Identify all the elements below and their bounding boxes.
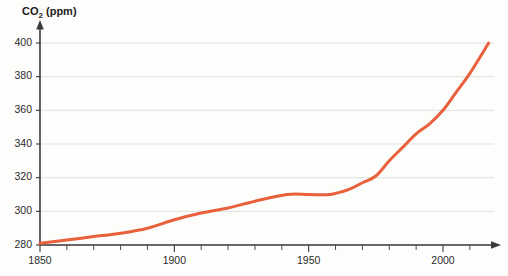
chart-canvas: CO2 (ppm) 280300320340360380400 18501900… bbox=[0, 0, 508, 276]
y-axis-arrow-icon bbox=[36, 20, 44, 30]
co2-line-chart: CO2 (ppm) 280300320340360380400 18501900… bbox=[0, 0, 508, 276]
y-tick-label: 280 bbox=[14, 238, 32, 250]
x-axis-ticks-group: 1850190019502000 bbox=[28, 245, 470, 266]
y-tick-label: 360 bbox=[14, 103, 32, 115]
x-tick-label: 2000 bbox=[431, 254, 455, 266]
y-axis-title: CO2 (ppm) bbox=[22, 5, 77, 20]
x-axis-arrow-icon bbox=[491, 241, 501, 249]
y-tick-label: 320 bbox=[14, 170, 32, 182]
y-tick-label: 340 bbox=[14, 137, 32, 149]
y-tick-label: 300 bbox=[14, 204, 32, 216]
y-tick-label: 400 bbox=[14, 36, 32, 48]
x-tick-label: 1850 bbox=[28, 254, 52, 266]
y-axis-ticks-group: 280300320340360380400 bbox=[14, 36, 40, 250]
gridlines-group bbox=[40, 43, 494, 245]
y-tick-label: 380 bbox=[14, 69, 32, 81]
x-tick-label: 1900 bbox=[163, 254, 187, 266]
x-tick-label: 1950 bbox=[297, 254, 321, 266]
co2-series-line bbox=[40, 43, 489, 243]
